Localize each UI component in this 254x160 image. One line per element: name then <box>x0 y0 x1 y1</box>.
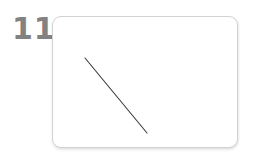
instruction-figure: 11 <box>0 0 254 160</box>
step-number-label: 11 <box>12 12 46 46</box>
drawing-card <box>52 16 238 148</box>
